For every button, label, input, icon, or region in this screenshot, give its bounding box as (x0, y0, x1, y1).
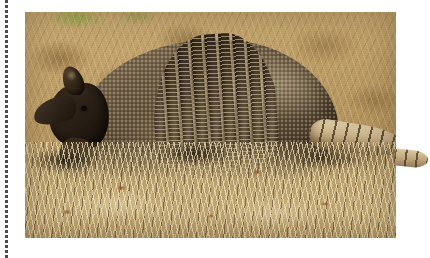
armadillo-photograph (25, 12, 396, 238)
foreground-leaf-litter (25, 142, 396, 238)
page-canvas (0, 0, 430, 258)
armadillo-tail-overhang (393, 148, 429, 168)
armadillo-eye (81, 106, 87, 111)
dotted-tear-line (5, 0, 8, 258)
foreground-dry-grass (25, 142, 396, 238)
